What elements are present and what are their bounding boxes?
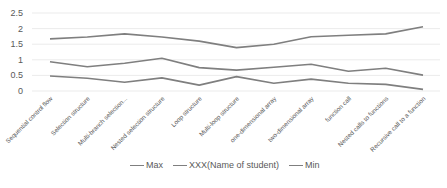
x-tick-label: Selection structure [49, 94, 91, 136]
x-tick-label: function call [324, 95, 352, 123]
y-tick-label: 0 [18, 86, 23, 96]
x-axis-ticks: Sequential control flowSelection structu… [4, 94, 427, 153]
legend: Max XXX(Name of student) Min [130, 160, 320, 170]
y-tick-label: 0.5 [10, 70, 23, 80]
legend-item-student: XXX(Name of student) [173, 160, 279, 170]
legend-swatch-max [130, 165, 144, 166]
y-axis-ticks: 00.511.522.5 [10, 8, 23, 96]
legend-item-max: Max [130, 160, 163, 170]
legend-label-min: Min [305, 160, 320, 170]
x-tick-label: Sequential control flow [4, 94, 55, 145]
y-tick-label: 1.5 [10, 39, 23, 49]
legend-label-max: Max [146, 160, 163, 170]
x-tick-label: Loop structure [169, 94, 203, 128]
series-line-min [50, 76, 423, 89]
series-lines [50, 27, 423, 90]
legend-item-min: Min [289, 160, 320, 170]
legend-label-student: XXX(Name of student) [189, 160, 279, 170]
y-tick-label: 2.5 [10, 8, 23, 18]
series-line-xxx-name-of-student [50, 58, 423, 75]
legend-swatch-min [289, 165, 303, 166]
y-tick-label: 1 [18, 55, 23, 65]
legend-swatch-student [173, 165, 187, 166]
y-tick-label: 2 [18, 24, 23, 34]
